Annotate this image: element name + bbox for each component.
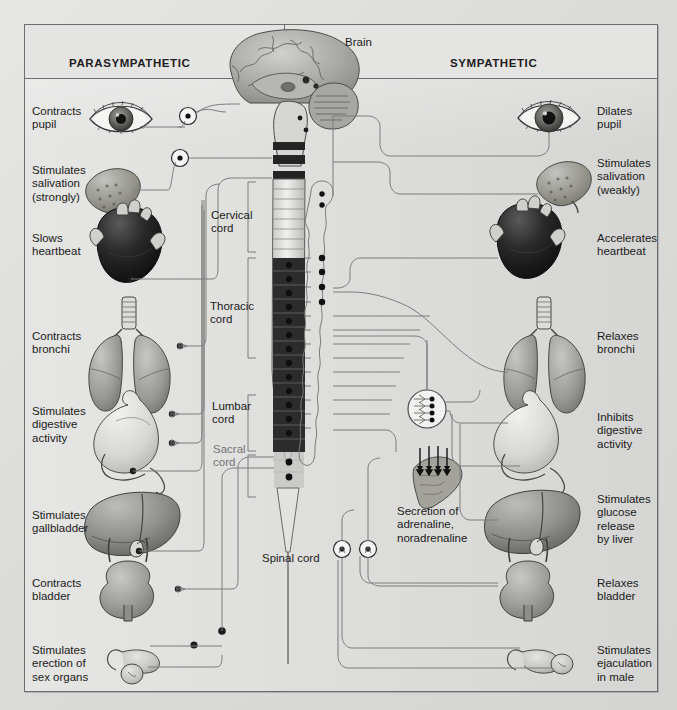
sex-organs-icon-right — [507, 650, 573, 674]
spinal-cord-label: Spinal cord — [262, 552, 320, 565]
symp-label-salivation: Stimulates salivation (weakly) — [597, 157, 651, 197]
lumbar-cord-label: Lumbar cord — [212, 400, 251, 427]
cervical-cord-label: Cervical cord — [211, 209, 253, 236]
diagram-page: PARASYMPATHETIC SYMPATHETIC — [0, 0, 677, 710]
brain-label: Brain — [345, 36, 372, 49]
symp-label-pupil: Dilates pupil — [597, 105, 632, 132]
spinal-cord-illustration — [272, 179, 305, 664]
sex-organ-nerve-dot-a — [190, 641, 197, 648]
sacral-bracket — [248, 455, 256, 497]
eye-icon-right — [518, 100, 580, 133]
heart-icon-left — [90, 200, 165, 283]
adrenal-secretion-label: Secretion of adrenaline, noradrenaline — [397, 505, 467, 545]
adrenal-gland-illustration — [413, 446, 462, 508]
sacral-outflow-dot-1 — [286, 459, 293, 466]
para-label-digestive: Stimulates digestive activity — [32, 405, 86, 445]
symp-label-digestive: Inhibits digestive activity — [597, 411, 642, 451]
lungs-icon-right — [504, 297, 585, 413]
thoracic-cord-label: Thoracic cord — [210, 300, 254, 327]
para-label-bronchi: Contracts bronchi — [32, 330, 81, 357]
symp-label-ejaculation: Stimulates ejaculation in male — [597, 644, 652, 684]
para-label-sex-organs: Stimulates erection of sex organs — [32, 644, 88, 684]
para-label-salivation: Stimulates salivation (strongly) — [32, 164, 86, 204]
liver-icon-left — [85, 492, 181, 557]
symp-label-bladder: Relaxes bladder — [597, 577, 639, 604]
symp-label-bronchi: Relaxes bronchi — [597, 330, 639, 357]
eye-icon-left — [90, 101, 152, 134]
symp-label-liver: Stimulates glucose release by liver — [597, 493, 651, 547]
heart-icon-right — [490, 196, 565, 279]
sacral-cord-label: Sacral cord — [213, 443, 246, 470]
para-label-gallbladder: Stimulates gallbladder — [32, 509, 88, 536]
para-label-bladder: Contracts bladder — [32, 577, 81, 604]
anatomy-artwork — [0, 0, 677, 710]
liver-icon-right — [485, 490, 581, 555]
para-label-heart: Slows heartbeat — [32, 232, 81, 259]
symp-label-heart: Accelerates heartbeat — [597, 232, 657, 259]
para-label-pupil: Contracts pupil — [32, 105, 81, 132]
sacral-outflow-dot-2 — [286, 474, 293, 481]
stomach-icon-right — [494, 391, 565, 494]
brain-illustration — [230, 30, 359, 179]
